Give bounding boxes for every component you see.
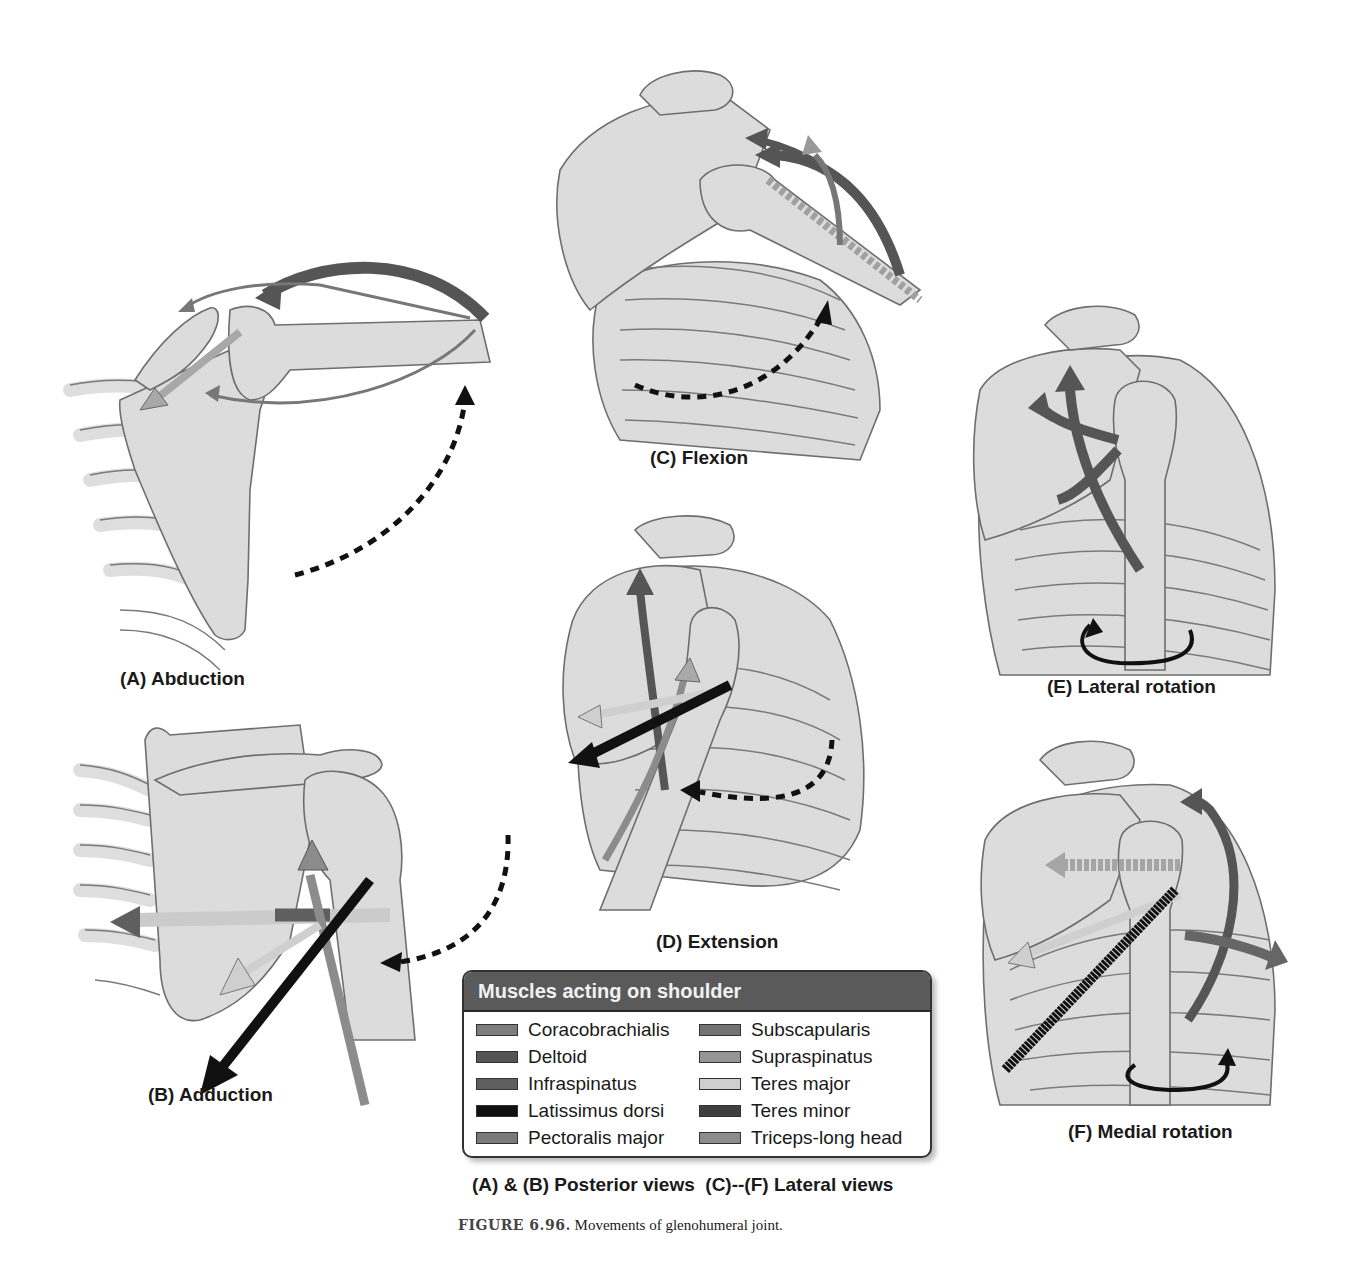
legend-title: Muscles acting on shoulder [464,972,930,1012]
flexion-illustration [540,60,940,480]
muscle-legend: Muscles acting on shoulder Coracobrachia… [462,970,932,1158]
medial-rotation-illustration [970,730,1290,1150]
clavicle [640,71,733,115]
legend-swatch [699,1105,741,1117]
panel-lateral-rotation: (E) Lateral rotation [960,280,1290,720]
extension-illustration [540,510,900,950]
legend-label: Triceps-long head [751,1127,902,1149]
movement-arrowhead [455,385,475,405]
legend-swatch [699,1051,741,1063]
supraspinatus-arrowhead [802,135,822,155]
legend-item: Infraspinatus [476,1070,699,1097]
legend-label: Pectoralis major [528,1127,664,1149]
legend-label: Coracobrachialis [528,1019,670,1041]
infraspinatus-dashed-arrow [135,915,390,920]
legend-swatch [476,1024,518,1036]
panel-label-adduction: (B) Adduction [148,1084,273,1106]
panel-extension: (D) Extension [540,510,900,950]
figure-caption: FIGURE 6.96. Movements of glenohumeral j… [458,1217,783,1234]
legend-item: Teres minor [699,1097,922,1124]
legend-item: Subscapularis [699,1016,922,1043]
legend-label: Deltoid [528,1046,587,1068]
figure-title: Movements of glenohumeral joint. [575,1217,783,1233]
abduction-illustration [60,250,510,700]
panel-flexion: (C) Flexion [540,60,940,480]
clavicle [635,516,734,558]
panel-label-abduction: (A) Abduction [120,668,245,690]
legend-swatch [476,1051,518,1063]
panel-label-extension: (D) Extension [656,931,778,953]
legend-label: Teres minor [751,1100,850,1122]
legend-item: Pectoralis major [476,1124,699,1151]
legend-swatch [476,1132,518,1144]
legend-swatch [476,1105,518,1117]
panel-label-lateral-rotation: (E) Lateral rotation [1047,676,1216,698]
adduction-illustration [60,710,530,1130]
panel-adduction: (B) Adduction [60,710,530,1130]
clavicle [1040,741,1134,785]
legend-item: Teres major [699,1070,922,1097]
movement-arc [400,835,508,962]
legend-swatch [476,1078,518,1090]
views-caption: (A) & (B) Posterior views (C)--(F) Later… [472,1174,893,1196]
legend-column-left: Coracobrachialis Deltoid Infraspinatus L… [476,1016,699,1151]
legend-item: Deltoid [476,1043,699,1070]
panel-label-medial-rotation: (F) Medial rotation [1068,1121,1233,1143]
legend-item: Triceps-long head [699,1124,922,1151]
legend-item: Coracobrachialis [476,1016,699,1043]
figure-number: FIGURE 6.96. [458,1217,571,1233]
deltoid-arrow [265,268,485,318]
panel-abduction: (A) Abduction [60,250,510,700]
legend-swatch [699,1024,741,1036]
legend-label: Infraspinatus [528,1073,637,1095]
legend-label: Teres major [751,1073,850,1095]
rib-cage [593,262,880,460]
ribs [80,765,160,995]
supraspinatus-arrowhead [178,298,195,312]
legend-swatch [699,1132,741,1144]
legend-column-right: Subscapularis Supraspinatus Teres major … [699,1016,922,1151]
clavicle [1045,306,1139,350]
legend-label: Latissimus dorsi [528,1100,664,1122]
panel-medial-rotation: (F) Medial rotation [970,730,1290,1150]
movement-arc [295,400,465,575]
legend-swatch [699,1078,741,1090]
legend-item: Supraspinatus [699,1043,922,1070]
legend-label: Subscapularis [751,1019,870,1041]
supraspinatus-line [185,284,470,318]
lateral-rotation-illustration [960,280,1290,720]
legend-label: Supraspinatus [751,1046,872,1068]
legend-item: Latissimus dorsi [476,1097,699,1124]
panel-label-flexion: (C) Flexion [650,447,748,469]
